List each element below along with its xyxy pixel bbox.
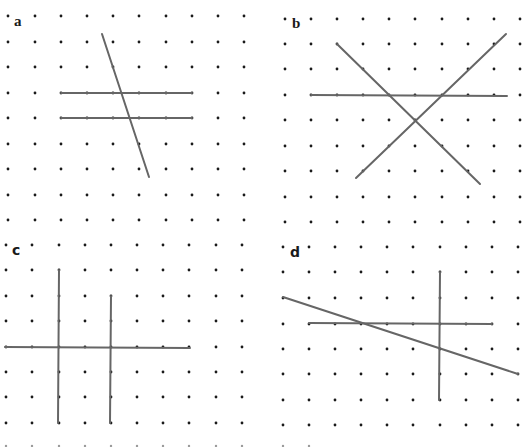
grid-dot: [388, 170, 391, 173]
grid-dot: [7, 41, 10, 44]
grid-dot: [34, 143, 37, 146]
grid-dot: [388, 221, 391, 224]
grid-dot: [243, 168, 246, 171]
grid-dot: [282, 424, 285, 427]
grid-dot: [493, 196, 496, 199]
grid-dot: [441, 119, 444, 122]
grid-dot: [386, 271, 389, 274]
grid-dot: [243, 41, 246, 44]
grid-dot: [165, 41, 168, 44]
grid-dot: [136, 371, 139, 374]
grid-dot: [388, 119, 391, 122]
grid-dot: [284, 119, 287, 122]
grid-dot: [7, 219, 10, 222]
grid-dot: [284, 145, 287, 148]
grid-dot: [84, 396, 87, 399]
grid-dot: [334, 297, 337, 300]
grid-dot: [138, 219, 141, 222]
grid-dot: [7, 92, 10, 95]
grid-dot: [362, 43, 365, 46]
grid-dot: [493, 145, 496, 148]
grid-dot: [465, 399, 468, 402]
grid-dot: [386, 373, 389, 376]
grid-dot: [388, 43, 391, 46]
grid-dot: [5, 320, 8, 323]
grid-dot: [31, 422, 34, 425]
grid-dot: [412, 348, 415, 351]
grid-dot: [136, 295, 139, 298]
grid-dot: [7, 143, 10, 146]
grid-dot: [517, 323, 520, 326]
grid-dot: [31, 320, 34, 323]
grid-dot: [284, 221, 287, 224]
grid-dot: [215, 320, 218, 323]
grid-dot: [386, 246, 389, 249]
grid-dot: [34, 219, 37, 222]
grid-dot: [136, 396, 139, 399]
panel-label-d: d: [290, 245, 300, 259]
grid-dot: [86, 66, 89, 69]
grid-dot: [360, 399, 363, 402]
grid-dot: [165, 194, 168, 197]
grid-dot: [414, 68, 417, 71]
grid-dot: [243, 194, 246, 197]
grid-dot: [282, 271, 285, 274]
grid-dot: [215, 269, 218, 272]
grid-dot: [310, 196, 313, 199]
grid-dot: [5, 269, 8, 272]
grid-dot: [519, 221, 522, 224]
grid-dot: [441, 68, 444, 71]
grid-dot: [188, 320, 191, 323]
grid-dot: [310, 68, 313, 71]
grid-dot: [388, 18, 391, 21]
grid-dot: [334, 348, 337, 351]
grid-dot: [138, 168, 141, 171]
grid-dot: [217, 92, 220, 95]
grid-dot: [439, 246, 442, 249]
grid-dot: [310, 145, 313, 148]
grid-dot: [388, 68, 391, 71]
grid-dot: [493, 170, 496, 173]
grid-dot: [336, 119, 339, 122]
grid-dot: [282, 348, 285, 351]
grid-dot: [282, 246, 285, 249]
grid-dot: [467, 196, 470, 199]
grid-dot: [34, 194, 37, 197]
grid-dot: [138, 15, 141, 18]
grid-dot: [138, 66, 141, 69]
grid-dot: [188, 396, 191, 399]
grid-dot: [188, 422, 191, 425]
grid-dot: [336, 170, 339, 173]
grid-dot: [217, 117, 220, 120]
grid-dot: [241, 422, 244, 425]
grid-dot: [334, 271, 337, 274]
grid-dot: [336, 221, 339, 224]
grid-dot: [86, 219, 89, 222]
grid-dot: [215, 244, 218, 247]
panel-label-b: b: [292, 16, 300, 31]
grid-dot: [360, 373, 363, 376]
grid-dot: [467, 221, 470, 224]
grid-dot: [86, 168, 89, 171]
grid-dot: [84, 320, 87, 323]
grid-dot: [465, 297, 468, 300]
horizontal-line: [309, 323, 492, 324]
grid-dot: [308, 271, 311, 274]
grid-dot: [284, 94, 287, 97]
grid-dot: [217, 143, 220, 146]
grid-dot: [386, 297, 389, 300]
grid-dot: [284, 43, 287, 46]
grid-dot: [282, 373, 285, 376]
grid-dot: [84, 422, 87, 425]
grid-dot: [362, 221, 365, 224]
horizontal-line: [5, 347, 190, 348]
grid-dot: [5, 422, 8, 425]
grid-dot: [112, 41, 115, 44]
grid-dot: [517, 399, 520, 402]
grid-dot: [362, 18, 365, 21]
grid-dot: [243, 92, 246, 95]
grid-dot: [165, 15, 168, 18]
grid-dot: [31, 371, 34, 374]
grid-dot: [188, 371, 191, 374]
grid-dot: [517, 348, 520, 351]
